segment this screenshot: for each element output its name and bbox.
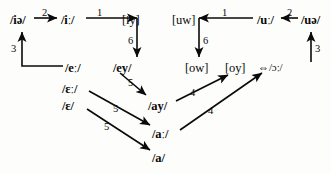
edge-label-E-a: 5 — [104, 122, 109, 133]
node-ie: /iə/ — [10, 14, 26, 27]
node-ow: [ow] — [185, 62, 208, 75]
edge-label-uw-ow: 6 — [203, 36, 208, 47]
edge-label-aa-oo: 4 — [208, 106, 213, 117]
edge-label-ie-ii: 2 — [42, 8, 47, 19]
edge-aa-oo — [180, 73, 262, 130]
edge-ay-oy — [176, 75, 228, 101]
edge-label-ay-oy: 4 — [190, 88, 195, 99]
edge-label-uu-uw: 1 — [222, 8, 227, 19]
edge-label-ey-ay: 5 — [128, 78, 133, 89]
edge-ee-ie — [22, 32, 63, 66]
edge-label-EE-aa: 5 — [113, 104, 118, 115]
edge-label-ii-iy: 1 — [97, 8, 102, 19]
node-iy: [iy] — [122, 14, 140, 27]
edge-E-a — [87, 109, 150, 150]
node-ue: /uə/ — [301, 14, 320, 27]
node-ee: /eː/ — [65, 62, 81, 75]
edge-label-oo-ue: 3 — [315, 44, 320, 55]
edge-EE-aa — [89, 91, 150, 125]
node-oy: [oy] — [225, 62, 245, 75]
node-uu: /uː/ — [257, 14, 274, 27]
edge-label-iy-ey: 6 — [128, 36, 133, 47]
node-EE: /ɛː/ — [62, 83, 77, 96]
node-ey: /ey/ — [113, 62, 131, 75]
node-uw: [uw] — [172, 14, 195, 27]
node-ay: /ay/ — [148, 100, 167, 113]
node-a: /a/ — [152, 152, 165, 165]
node-oo: ⇔/ɔː/ — [258, 62, 283, 73]
diagram-arrows-layer — [0, 0, 331, 173]
node-aa: /aː/ — [152, 128, 168, 141]
edge-label-ue-uu: 2 — [287, 8, 292, 19]
edge-label-ee-ie: 3 — [11, 44, 16, 55]
vowel-shift-diagram: /iə/ /iː/ [iy] [uw] /uː/ /uə/ /eː/ /ey/ … — [0, 0, 331, 173]
node-ii: /iː/ — [61, 14, 75, 27]
node-E: /ɛ/ — [62, 100, 74, 113]
